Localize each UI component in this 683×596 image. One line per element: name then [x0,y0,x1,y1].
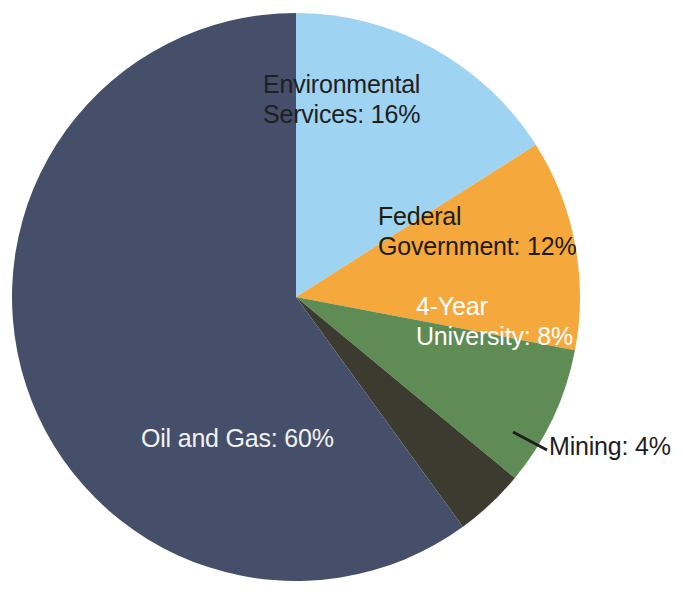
slices-group [12,13,580,581]
pie-chart-slices [0,0,683,596]
pie-chart: Environmental Services: 16% Federal Gove… [0,0,683,596]
